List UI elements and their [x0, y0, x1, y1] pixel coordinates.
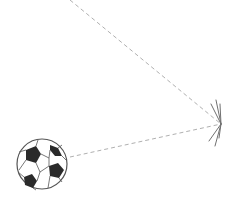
impact-burst-icon — [209, 100, 221, 146]
incoming-trajectory-line — [70, 0, 221, 124]
soccer-ball-icon — [17, 139, 67, 190]
trajectory-diagram — [0, 0, 238, 211]
outgoing-trajectory-line — [70, 124, 221, 157]
